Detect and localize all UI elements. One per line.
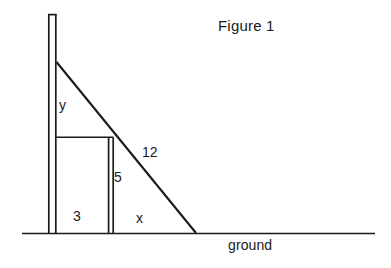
figure-canvas: Figure 1 y 12 5 3 x ground — [0, 0, 391, 268]
inner-post — [109, 138, 114, 234]
label-ground: ground — [228, 238, 272, 252]
label-pole-height-y: y — [59, 98, 66, 112]
label-base-far-x: x — [136, 211, 143, 225]
label-base-near-3: 3 — [73, 209, 81, 223]
vertical-pole — [48, 14, 57, 233]
figure-geometry-svg — [0, 0, 391, 268]
figure-title: Figure 1 — [218, 18, 275, 33]
label-ladder-length-12: 12 — [142, 145, 158, 159]
label-post-height-5: 5 — [114, 170, 122, 184]
